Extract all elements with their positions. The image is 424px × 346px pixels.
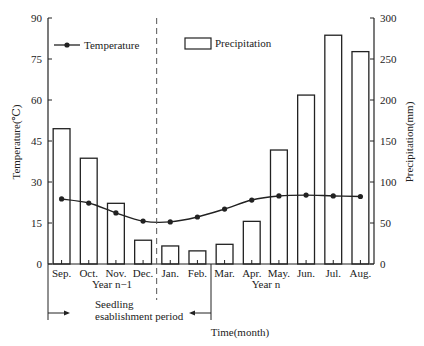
x-tick-label: Aug. bbox=[350, 267, 372, 279]
precipitation-bars bbox=[53, 35, 369, 264]
year-prev-label: Year n−1 bbox=[92, 278, 132, 290]
x-tick-label: Sep. bbox=[52, 267, 72, 279]
x-tick-label: Mar. bbox=[214, 267, 235, 279]
precipitation-bar bbox=[270, 150, 287, 264]
climate-chart: 0153045607590050100150200250300Sep.Oct.N… bbox=[0, 0, 424, 346]
annotations bbox=[48, 18, 211, 320]
legend-precipitation-label: Precipitation bbox=[215, 37, 272, 49]
x-tick-label: Jul. bbox=[325, 267, 341, 279]
y-right-tick-label: 250 bbox=[380, 53, 397, 65]
y-right-tick-label: 50 bbox=[380, 217, 392, 229]
y-right-tick-label: 200 bbox=[380, 94, 397, 106]
legend-temperature-marker bbox=[64, 42, 69, 47]
y-axis-right-label: Precipitation(mm) bbox=[403, 101, 416, 182]
temperature-point bbox=[249, 197, 254, 202]
y-right-tick-label: 300 bbox=[380, 12, 397, 24]
temperature-line bbox=[59, 193, 363, 225]
y-axis-left-label: Temperature(℃) bbox=[10, 104, 23, 179]
y-right-tick-label: 100 bbox=[380, 176, 397, 188]
temperature-point bbox=[195, 214, 200, 219]
y-left-tick-label: 30 bbox=[31, 176, 43, 188]
temperature-point bbox=[276, 193, 281, 198]
year-curr-label: Year n bbox=[252, 278, 281, 290]
legend-temperature-label: Temperature bbox=[84, 39, 140, 51]
precipitation-bar bbox=[325, 35, 342, 264]
y-left-tick-label: 0 bbox=[37, 258, 43, 270]
y-left-tick-label: 45 bbox=[31, 135, 43, 147]
precipitation-bar bbox=[80, 158, 97, 264]
temperature-point bbox=[303, 193, 308, 198]
temperature-point bbox=[358, 194, 363, 199]
x-axis-label: Time(month) bbox=[211, 326, 270, 339]
legend: Temperature Precipitation bbox=[54, 37, 272, 51]
period-arrowhead-left bbox=[64, 311, 70, 316]
x-tick-label: Feb. bbox=[188, 267, 208, 279]
x-tick-label: Dec. bbox=[133, 267, 154, 279]
temperature-point bbox=[86, 200, 91, 205]
y-left-tick-label: 90 bbox=[31, 12, 43, 24]
precipitation-bar bbox=[352, 52, 369, 264]
temperature-point bbox=[222, 206, 227, 211]
period-arrowhead-right bbox=[189, 311, 195, 316]
y-left-tick-label: 75 bbox=[31, 53, 43, 65]
temperature-point bbox=[113, 210, 118, 215]
y-right-tick-label: 150 bbox=[380, 135, 397, 147]
temperature-point bbox=[140, 218, 145, 223]
period-label-line1: Seedling bbox=[95, 298, 134, 310]
y-left-tick-label: 15 bbox=[31, 217, 43, 229]
period-label-line2: esablishment period bbox=[95, 310, 184, 322]
temperature-curve bbox=[62, 195, 361, 222]
y-right-tick-label: 0 bbox=[380, 258, 386, 270]
precipitation-bar bbox=[298, 95, 315, 264]
precipitation-bar bbox=[243, 221, 260, 264]
temperature-point bbox=[168, 219, 173, 224]
legend-precipitation-marker bbox=[185, 38, 211, 49]
temperature-point bbox=[331, 193, 336, 198]
x-tick-label: Jan. bbox=[162, 267, 180, 279]
temperature-point bbox=[59, 196, 64, 201]
x-tick-label: Jun. bbox=[297, 267, 315, 279]
y-left-tick-label: 60 bbox=[31, 94, 43, 106]
